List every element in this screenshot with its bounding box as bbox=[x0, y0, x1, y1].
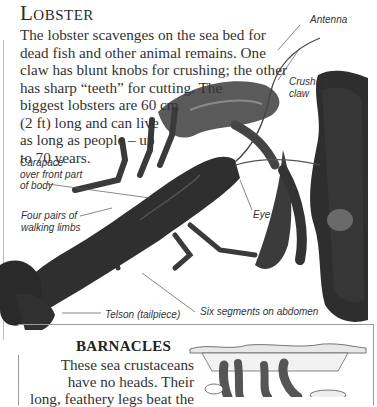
intro-line: The lobster scavenges on the sea bed for bbox=[20, 26, 266, 44]
intro-line: as long as people – up bbox=[20, 131, 155, 149]
label-carapace: Carapace over front part of body bbox=[20, 157, 82, 192]
intro-line: (2 ft) long and can live bbox=[20, 114, 159, 132]
label-walking-limbs: Four pairs of walking limbs bbox=[21, 210, 80, 233]
barnacles-title: BARNACLES bbox=[76, 338, 171, 355]
label-line: over front part bbox=[20, 169, 82, 181]
barnacles-line: have no heads. Their bbox=[68, 373, 194, 390]
intro-line: biggest lobsters are 60 cm bbox=[20, 96, 179, 114]
label-line: Four pairs of bbox=[21, 210, 80, 222]
label-line: Carapace bbox=[20, 157, 82, 169]
barnacles-line: These sea crustaceans bbox=[61, 356, 194, 373]
barnacles-line: long, feathery legs beat the bbox=[30, 390, 194, 407]
label-line: walking limbs bbox=[21, 222, 80, 234]
barnacles-drawing bbox=[188, 335, 368, 397]
label-telson: Telson (tailpiece) bbox=[105, 309, 180, 321]
label-line: of body bbox=[20, 180, 82, 192]
label-line: Crushing bbox=[289, 76, 329, 88]
intro-line: dead fish and other animal remains. One bbox=[20, 44, 266, 62]
intro-line: claw has blunt knobs for crushing; the o… bbox=[20, 61, 287, 79]
intro-line: has sharp “teeth” for cutting. The bbox=[20, 79, 222, 97]
label-crushing-claw: Crushing claw bbox=[289, 76, 329, 99]
label-eye: Eye bbox=[253, 209, 270, 221]
label-abdomen: Six segments on abdomen bbox=[200, 306, 318, 318]
section-title: Lobster bbox=[20, 3, 94, 24]
label-antenna: Antenna bbox=[310, 14, 347, 26]
barnacles-box-left-rule bbox=[18, 355, 19, 405]
label-line: claw bbox=[289, 88, 329, 100]
